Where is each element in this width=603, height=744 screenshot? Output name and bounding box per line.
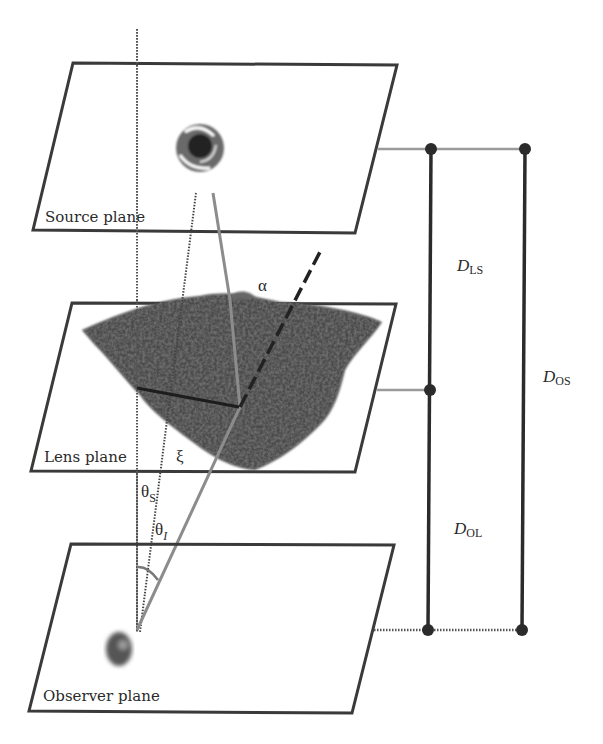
lens-plane-label: Lens plane [44,448,127,466]
xi-label: ξ [176,447,184,466]
node-dot [424,384,436,396]
observer-plane: Observer plane [29,544,394,713]
outer-distance-bar [522,149,525,630]
node-dot [425,143,437,155]
node-dot [516,624,528,636]
observer-plane-label: Observer plane [43,687,160,705]
d-ls-label: DLS [456,256,483,277]
theta-s-label: θS [141,482,156,505]
lensing-diagram: Source plane Lens plane α ξ θS θI Observ… [0,0,603,744]
alpha-label: α [258,276,267,295]
d-os-label: DOS [542,367,571,388]
node-dot [422,624,434,636]
source-plane-label: Source plane [45,208,145,226]
source-galaxy-icon [176,124,224,172]
d-ol-label: DOL [453,519,482,540]
node-dot [519,143,531,155]
theta-i-label: θI [155,520,168,543]
observer-eye-icon [106,632,132,666]
